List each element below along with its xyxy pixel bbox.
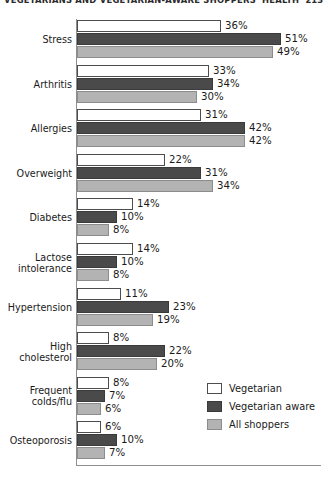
bar-value-label: 6%: [105, 420, 121, 433]
bar-vegetarian-aware: [77, 434, 117, 446]
bar-value-label: 7%: [109, 389, 125, 402]
category-label: Diabetes: [0, 212, 72, 223]
swatch-all-shoppers: [207, 419, 222, 430]
bar-vegetarian: [77, 198, 133, 210]
chart-bottom-rule: [76, 465, 321, 466]
legend-label: Vegetarian: [229, 381, 282, 396]
bar-value-label: 14%: [137, 242, 160, 255]
legend-item[interactable]: All shoppers: [207, 417, 325, 433]
bar-group: Diabetes14%10%8%: [0, 198, 329, 237]
bar-value-label: 33%: [213, 64, 236, 77]
bar-value-label: 19%: [157, 313, 180, 326]
bar-group: Lactose intolerance14%10%8%: [0, 243, 329, 282]
category-label: Hypertension: [0, 302, 72, 313]
bar-vegetarian-aware: [77, 390, 105, 402]
bar-vegetarian-aware: [77, 78, 213, 90]
bar-value-label: 8%: [113, 331, 129, 344]
category-label: Arthritis: [0, 79, 72, 90]
bar-group: Overweight22%31%34%: [0, 154, 329, 193]
category-label: Osteoporosis: [0, 435, 72, 446]
category-label: Overweight: [0, 168, 72, 179]
bar-value-label: 34%: [217, 77, 240, 90]
bar-vegetarian-aware: [77, 211, 117, 223]
bar-value-label: 10%: [121, 255, 144, 268]
bar-value-label: 23%: [173, 300, 196, 313]
bar-vegetarian: [77, 288, 121, 300]
bar-all-shoppers: [77, 403, 101, 415]
bar-value-label: 51%: [285, 32, 308, 45]
bar-value-label: 10%: [121, 433, 144, 446]
bar-vegetarian: [77, 20, 221, 32]
bar-all-shoppers: [77, 135, 245, 147]
bar-group: Stress36%51%49%: [0, 20, 329, 59]
bar-all-shoppers: [77, 224, 109, 236]
bar-value-label: 49%: [277, 45, 300, 58]
bar-value-label: 8%: [113, 376, 129, 389]
bar-value-label: 11%: [125, 287, 148, 300]
bar-chart: Stress36%51%49%Arthritis33%34%30%Allergi…: [0, 0, 329, 478]
bar-value-label: 7%: [109, 446, 125, 459]
bar-all-shoppers: [77, 46, 273, 58]
bar-vegetarian: [77, 421, 101, 433]
bar-value-label: 42%: [249, 121, 272, 134]
category-label: Frequent colds/flu: [0, 385, 72, 407]
bar-value-label: 14%: [137, 197, 160, 210]
bar-vegetarian-aware: [77, 301, 169, 313]
bar-value-label: 20%: [161, 357, 184, 370]
bar-vegetarian: [77, 154, 165, 166]
bar-value-label: 42%: [249, 134, 272, 147]
category-label: Lactose intolerance: [0, 252, 72, 274]
bar-all-shoppers: [77, 358, 157, 370]
legend-item[interactable]: Vegetarian: [207, 381, 325, 397]
bar-vegetarian-aware: [77, 256, 117, 268]
bar-vegetarian: [77, 109, 201, 121]
bar-group: Arthritis33%34%30%: [0, 65, 329, 104]
bar-group: Allergies31%42%42%: [0, 109, 329, 148]
bar-all-shoppers: [77, 314, 153, 326]
legend-label: Vegetarian aware: [229, 399, 315, 414]
bar-vegetarian: [77, 377, 109, 389]
chart-legend: VegetarianVegetarian awareAll shoppers: [207, 381, 325, 435]
bar-vegetarian: [77, 243, 133, 255]
category-label: Stress: [0, 34, 72, 45]
bar-value-label: 22%: [169, 153, 192, 166]
category-label: Allergies: [0, 123, 72, 134]
bar-all-shoppers: [77, 269, 109, 281]
bar-value-label: 34%: [217, 179, 240, 192]
bar-value-label: 6%: [105, 402, 121, 415]
category-label: High cholesterol: [0, 341, 72, 363]
bar-value-label: 31%: [205, 108, 228, 121]
bar-vegetarian-aware: [77, 167, 201, 179]
bar-value-label: 22%: [169, 344, 192, 357]
bar-all-shoppers: [77, 447, 105, 459]
swatch-vegetarian: [207, 383, 222, 394]
bar-vegetarian-aware: [77, 345, 165, 357]
legend-label: All shoppers: [229, 417, 289, 432]
legend-item[interactable]: Vegetarian aware: [207, 399, 325, 415]
bar-value-label: 36%: [225, 19, 248, 32]
bar-value-label: 31%: [205, 166, 228, 179]
swatch-vegetarian-aware: [207, 401, 222, 412]
bar-value-label: 10%: [121, 210, 144, 223]
bar-vegetarian-aware: [77, 122, 245, 134]
bar-all-shoppers: [77, 180, 213, 192]
bar-all-shoppers: [77, 91, 197, 103]
bar-value-label: 30%: [201, 90, 224, 103]
bar-value-label: 8%: [113, 223, 129, 236]
bar-vegetarian-aware: [77, 33, 281, 45]
bar-vegetarian: [77, 65, 209, 77]
bar-value-label: 8%: [113, 268, 129, 281]
bar-group: High cholesterol8%22%20%: [0, 332, 329, 371]
bar-group: Hypertension11%23%19%: [0, 288, 329, 327]
bar-vegetarian: [77, 332, 109, 344]
